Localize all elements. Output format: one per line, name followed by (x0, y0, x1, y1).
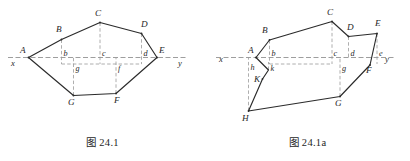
vertex-dot-E (376, 33, 378, 35)
vertex-dot-B (269, 39, 271, 41)
polygon-outline (249, 22, 378, 112)
diagram-24-1: ABCDEFG bcdgf xy (0, 0, 205, 133)
foot-label-d: d (351, 49, 356, 58)
vertex-label-C: C (327, 7, 334, 17)
axis-label-y: y (177, 58, 182, 68)
vertex-label-E: E (374, 18, 381, 28)
foot-label-g: g (76, 64, 80, 73)
vertex-dot-B (61, 39, 63, 41)
vertex-labels-group: ABCDEFGHK (241, 7, 381, 123)
vertex-label-A: A (19, 45, 26, 55)
figure-caption-24-1: 图 24.1 (0, 134, 205, 149)
vertex-dot-C (99, 22, 101, 24)
guide-lines-group (62, 23, 142, 96)
axis-labels-group: xy (218, 54, 389, 65)
figure-page: ABCDEFG bcdgf xy 图 24.1 ABCDEFGHK bcdehk… (0, 0, 410, 161)
foot-label-g: g (342, 64, 346, 73)
foot-label-k: k (271, 64, 275, 73)
guide-lines-group (249, 22, 378, 112)
foot-label-b: b (64, 49, 68, 58)
vertex-label-E: E (158, 45, 165, 55)
axis-label-x: x (10, 58, 15, 68)
figure-panel-24-1a: ABCDEFGHK bcdehkg xy 图 24.1a (205, 0, 410, 161)
vertex-label-G: G (335, 98, 342, 108)
vertex-dot-D (141, 33, 143, 35)
vertex-dot-A (255, 57, 257, 59)
figure-caption-24-1a: 图 24.1a (205, 134, 410, 149)
vertex-label-F: F (113, 95, 120, 105)
polygon-outline-group (249, 22, 378, 112)
vertex-dot-C (331, 21, 333, 23)
foot-label-f: f (118, 64, 122, 73)
vertex-dot-K (262, 78, 264, 80)
vertex-label-D: D (140, 19, 148, 29)
vertex-label-H: H (241, 113, 250, 123)
foot-label-e: e (379, 49, 383, 58)
foot-label-h: h (251, 63, 255, 72)
foot-labels-group: bcdehkg (251, 49, 384, 74)
vertex-dot-D (348, 36, 350, 38)
foot-label-c: c (334, 49, 338, 58)
vertex-label-A: A (247, 45, 254, 55)
vertex-dot-E (156, 57, 158, 59)
vertex-dot-H (248, 110, 250, 112)
vertex-label-G: G (68, 97, 75, 107)
figure-panel-24-1: ABCDEFG bcdgf xy 图 24.1 (0, 0, 205, 161)
vertex-label-B: B (56, 24, 62, 34)
vertex-dot-A (28, 57, 30, 59)
polygon-outline-group (29, 23, 158, 96)
polygon-outline (29, 23, 158, 96)
vertex-label-D: D (346, 22, 354, 32)
vertex-label-K: K (253, 74, 261, 84)
vertex-label-F: F (365, 65, 372, 75)
foot-labels-group: bcdgf (64, 49, 149, 73)
vertex-label-B: B (262, 25, 268, 35)
axis-label-x: x (218, 54, 223, 64)
axis-label-y: y (384, 54, 389, 64)
vertex-label-C: C (95, 8, 102, 18)
foot-label-d: d (144, 49, 149, 58)
diagram-24-1a: ABCDEFGHK bcdehkg xy (205, 0, 410, 133)
foot-label-b: b (272, 49, 276, 58)
foot-label-c: c (102, 49, 106, 58)
